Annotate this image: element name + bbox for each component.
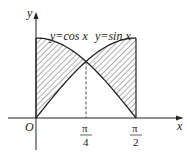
hatched-region-right — [86, 38, 136, 118]
x-axis-label: x — [176, 119, 183, 133]
sin-curve-label: y=sin x — [94, 29, 131, 43]
plot: y x O y=cos x y=sin x π 4 π 2 — [0, 0, 187, 158]
hatched-region-left — [36, 38, 86, 118]
tick-pi2-numerator: π — [132, 122, 138, 134]
y-axis-arrow-icon — [34, 12, 39, 19]
tick-pi4-numerator: π — [82, 122, 88, 134]
cos-curve-label: y=cos x — [49, 29, 88, 43]
tick-pi2-denominator: 2 — [133, 136, 139, 148]
y-axis-label: y — [26, 6, 33, 20]
tick-pi4-denominator: 4 — [83, 136, 89, 148]
diagram: y x O y=cos x y=sin x π 4 π 2 — [0, 0, 187, 158]
origin-label: O — [25, 120, 34, 134]
